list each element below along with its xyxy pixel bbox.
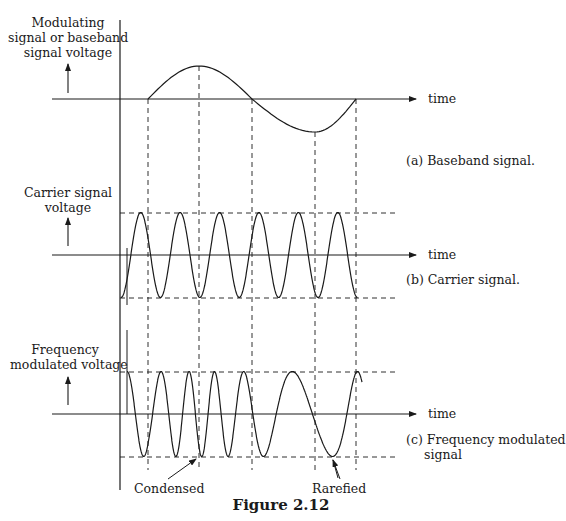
baseband-ylabel: Modulating signal or baseband signal vol…: [8, 15, 128, 60]
fm-caption-line-2: signal: [406, 447, 566, 462]
carrier-ylabel: Carrier signal voltage: [18, 185, 118, 215]
rarefied-arrow-head: [333, 460, 340, 479]
fm-caption-line-1: (c) Frequency modulated: [406, 432, 566, 447]
baseband-ylabel-line-2: signal or baseband: [8, 30, 128, 45]
carrier-ylabel-line-2: voltage: [18, 200, 118, 215]
fm-xlabel: time: [428, 406, 456, 421]
baseband-ylabel-line-3: signal voltage: [8, 45, 128, 60]
carrier-caption: (b) Carrier signal.: [406, 272, 520, 287]
fm-ylabel: Frequency modulated voltage: [10, 342, 120, 372]
fm-ylabel-line-1: Frequency: [10, 342, 120, 357]
rarefied-label: Rarefied: [312, 481, 366, 496]
figure-caption: Figure 2.12: [0, 496, 562, 514]
baseband-xlabel: time: [428, 91, 456, 106]
carrier-ylabel-line-1: Carrier signal: [18, 185, 118, 200]
condensed-arrow-icon: [168, 459, 196, 479]
fm-ylabel-line-2: modulated voltage: [10, 357, 120, 372]
baseband-caption: (a) Baseband signal.: [406, 153, 535, 168]
carrier-xlabel: time: [428, 247, 456, 262]
fm-caption: (c) Frequency modulated signal: [406, 432, 566, 462]
condensed-label: Condensed: [134, 481, 204, 496]
baseband-ylabel-line-1: Modulating: [8, 15, 128, 30]
